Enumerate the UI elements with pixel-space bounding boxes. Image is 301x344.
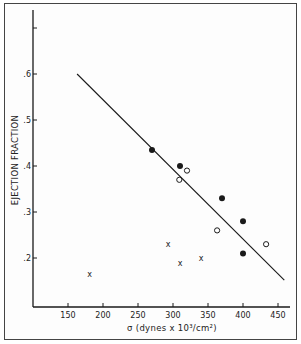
data-point-filled bbox=[240, 218, 246, 224]
data-point-open bbox=[177, 177, 182, 182]
data-point-open bbox=[215, 228, 220, 233]
data-point-filled bbox=[219, 195, 225, 201]
data-point-cross: x bbox=[166, 240, 171, 249]
x-tick-label: 150 bbox=[60, 311, 75, 320]
data-point-filled bbox=[240, 250, 246, 256]
data-point-cross: x bbox=[178, 259, 183, 268]
y-tick-label: .3 bbox=[23, 208, 31, 217]
scatter-chart: .2.3.4.5.6150200250300350400450σ (dynes … bbox=[0, 0, 301, 344]
x-tick-label: 200 bbox=[95, 311, 110, 320]
y-tick-label: .5 bbox=[23, 116, 31, 125]
y-tick-label: .6 bbox=[23, 70, 31, 79]
x-axis-title: σ (dynes x 10³/cm²) bbox=[127, 323, 217, 333]
data-point-open bbox=[264, 242, 269, 247]
x-tick-label: 400 bbox=[235, 311, 250, 320]
data-point-filled bbox=[177, 163, 183, 169]
y-tick-label: .2 bbox=[23, 254, 31, 263]
x-tick-label: 350 bbox=[200, 311, 215, 320]
y-axis-title: EJECTION FRACTION bbox=[10, 115, 20, 206]
x-tick-label: 250 bbox=[130, 311, 145, 320]
data-point-cross: x bbox=[199, 254, 204, 263]
x-tick-label: 450 bbox=[270, 311, 285, 320]
data-point-cross: x bbox=[87, 270, 92, 279]
data-point-filled bbox=[149, 147, 155, 153]
data-point-open bbox=[184, 168, 189, 173]
y-tick-label: .4 bbox=[23, 162, 31, 171]
x-tick-label: 300 bbox=[165, 311, 180, 320]
